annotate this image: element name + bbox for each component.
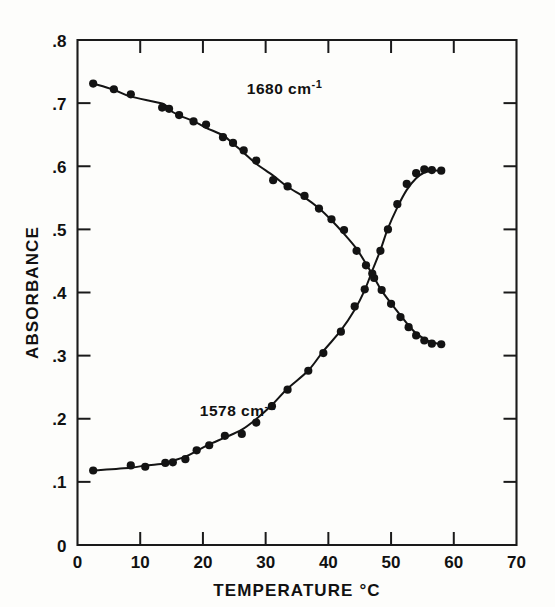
data-point [89, 79, 97, 87]
absorbance-vs-temperature-chart: 0.1.2.3.4.5.6.7.8010203040506070TEMPERAT… [0, 0, 555, 607]
x-tick-label: 70 [507, 553, 526, 572]
data-point [387, 300, 395, 308]
data-point [89, 466, 97, 474]
data-point [110, 85, 118, 93]
data-point [169, 458, 177, 466]
fitted-curve [93, 171, 441, 471]
data-point [396, 313, 404, 321]
data-point [376, 247, 384, 255]
x-tick-label: 0 [73, 553, 82, 572]
data-point [238, 430, 246, 438]
x-tick-label: 20 [193, 553, 212, 572]
x-tick-label: 50 [382, 553, 401, 572]
y-tick-label: .5 [52, 221, 66, 240]
data-point [219, 133, 227, 141]
data-point [437, 167, 445, 175]
data-point [368, 269, 376, 277]
data-point [240, 146, 248, 154]
data-point [175, 111, 183, 119]
data-point [158, 103, 166, 111]
series-label-1680: 1680 cm-1 [247, 78, 322, 97]
data-point [304, 367, 312, 375]
data-point [283, 386, 291, 394]
data-point [319, 349, 327, 357]
data-point [420, 336, 428, 344]
data-point [412, 169, 420, 177]
data-point [327, 215, 335, 223]
data-point [165, 105, 173, 113]
series-label-1578: 1578 cm-1 [200, 400, 275, 419]
y-tick-label: .2 [52, 410, 66, 429]
data-point [428, 166, 436, 174]
data-point [337, 328, 345, 336]
data-point [252, 418, 260, 426]
x-axis-title: TEMPERATURE °C [213, 581, 380, 600]
data-point [412, 331, 420, 339]
data-point [352, 247, 360, 255]
series-2 [89, 165, 445, 474]
data-point [393, 200, 401, 208]
x-tick-label: 40 [319, 553, 338, 572]
x-tick-label: 60 [444, 553, 463, 572]
data-point [384, 225, 392, 233]
data-point [127, 461, 135, 469]
x-tick-label: 30 [256, 553, 275, 572]
data-point [403, 180, 411, 188]
y-tick-label: .8 [52, 32, 66, 51]
data-point [189, 117, 197, 125]
data-point [378, 286, 386, 294]
data-point [269, 176, 277, 184]
data-point [193, 446, 201, 454]
series-1 [89, 79, 445, 348]
data-point [221, 432, 229, 440]
y-tick-label: .3 [52, 347, 66, 366]
y-axis-title: ABSORBANCE [23, 226, 42, 359]
data-point [229, 139, 237, 147]
data-point [420, 165, 428, 173]
data-point [437, 340, 445, 348]
y-tick-label: .6 [52, 158, 66, 177]
data-point [361, 285, 369, 293]
data-point [300, 192, 308, 200]
data-point [362, 261, 370, 269]
data-point [181, 455, 189, 463]
data-point [351, 302, 359, 310]
data-point [315, 204, 323, 212]
data-point [252, 156, 260, 164]
data-point [283, 182, 291, 190]
data-point [127, 90, 135, 98]
y-tick-label: .4 [52, 284, 67, 303]
data-point [202, 120, 210, 128]
data-point [428, 340, 436, 348]
y-tick-label: .1 [52, 473, 66, 492]
figure-canvas: 0.1.2.3.4.5.6.7.8010203040506070TEMPERAT… [0, 0, 555, 607]
y-tick-label: 0 [57, 537, 66, 556]
data-point [205, 441, 213, 449]
data-point [141, 463, 149, 471]
x-tick-label: 10 [131, 553, 150, 572]
data-point [405, 323, 413, 331]
data-point [161, 459, 169, 467]
y-tick-label: .7 [52, 95, 66, 114]
data-point [340, 226, 348, 234]
